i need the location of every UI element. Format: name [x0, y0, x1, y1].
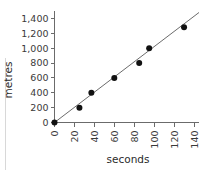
y-axis-tick-label: 0 [42, 117, 48, 128]
y-axis-tick-label: 200 [30, 102, 48, 113]
x-axis-tick-label: 120 [169, 131, 180, 149]
x-axis-title: seconds [107, 153, 150, 165]
trend-line [55, 12, 200, 122]
data-point [88, 90, 94, 96]
data-point [181, 24, 187, 30]
y-axis-ticks [51, 18, 55, 122]
y-axis-tick-label: 1,000 [21, 43, 48, 54]
y-axis-tick-label: 800 [30, 57, 48, 68]
y-axis-tick-label: 400 [30, 87, 48, 98]
x-axis-tick-label: 60 [109, 131, 120, 143]
data-point [52, 120, 58, 126]
data-point [111, 75, 117, 81]
x-axis-tick-label: 40 [89, 131, 100, 143]
y-axis-tick-label: 1,400 [21, 13, 48, 24]
data-point [76, 105, 82, 111]
data-point [146, 45, 152, 51]
x-axis-tick-label: 140 [189, 131, 200, 149]
x-axis-tick-labels: 020406080100120140 [49, 131, 200, 149]
x-axis-tick-label: 20 [69, 131, 80, 143]
data-point [136, 60, 142, 66]
x-axis-tick-label: 100 [149, 131, 160, 149]
scatter-chart: 02004006008001,0001,2001,400 02040608010… [0, 0, 201, 173]
y-axis-tick-label: 1,200 [21, 28, 48, 39]
plot-area: 02004006008001,0001,2001,400 02040608010… [0, 0, 201, 173]
y-axis-tick-labels: 02004006008001,0001,2001,400 [21, 13, 48, 128]
data-points [52, 24, 188, 125]
x-axis-ticks [55, 123, 195, 127]
x-axis-tick-label: 0 [49, 131, 60, 137]
x-axis-tick-label: 80 [129, 131, 140, 143]
y-axis-title: metres [2, 62, 14, 99]
y-axis-tick-label: 600 [30, 72, 48, 83]
